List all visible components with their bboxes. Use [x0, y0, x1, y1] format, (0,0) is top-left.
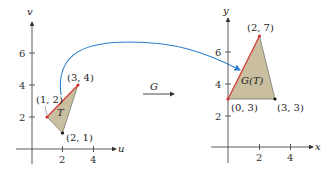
- point-2-1: [61, 131, 64, 134]
- v-tick-label-4: 4: [19, 80, 25, 91]
- point-label-3-3: (3, 3): [277, 102, 304, 113]
- region-g-t-label: G(T): [241, 75, 264, 86]
- x-axis-label: x: [315, 141, 321, 152]
- y-tick-label-2: 2: [215, 111, 221, 122]
- point-label-2-7: (2, 7): [247, 22, 274, 33]
- y-tick-label-6: 6: [215, 47, 221, 58]
- v-tick-label-2: 2: [19, 112, 25, 123]
- v-tick-label-6: 6: [19, 48, 25, 59]
- x-tick-label-4: 4: [287, 152, 293, 163]
- y-tick-label-4: 4: [215, 79, 221, 90]
- point-label-3-4: (3, 4): [67, 72, 94, 83]
- u-tick-label-2: 2: [59, 154, 65, 165]
- u-tick-label-4: 4: [90, 154, 96, 165]
- point-0-3: [226, 97, 229, 100]
- point-2-7: [258, 34, 261, 37]
- point-label-0-3: (0, 3): [231, 102, 258, 113]
- transform-label: G: [150, 81, 158, 92]
- v-axis-label: v: [27, 6, 33, 17]
- point-label-1-2: (1, 2): [36, 94, 63, 105]
- transform-g: G: [143, 81, 174, 94]
- transformation-diagram: u v 2 4 2 4 6 T (1, 2) (3, 4) (2, 1) G x: [0, 0, 330, 172]
- right-plot: x y 2 4 2 4 6 G(T) (2, 7) (0, 3) (3, 3): [211, 5, 321, 163]
- leader-line: [45, 106, 47, 115]
- point-3-4: [76, 83, 79, 86]
- u-axis-label: u: [118, 143, 124, 154]
- left-plot: u v 2 4 2 4 6 T (1, 2) (3, 4) (2, 1): [16, 6, 124, 165]
- point-label-2-1: (2, 1): [66, 132, 93, 143]
- point-1-2: [45, 115, 48, 118]
- y-axis-label: y: [222, 5, 229, 16]
- x-tick-label-2: 2: [256, 152, 262, 163]
- point-3-3: [273, 97, 276, 100]
